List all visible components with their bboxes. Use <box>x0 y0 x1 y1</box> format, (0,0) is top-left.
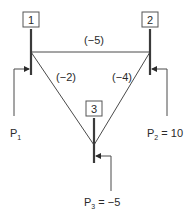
load-label-p3: P3 = −5 <box>84 196 120 210</box>
truss-diagram: 1 2 3 (−5) (−2) (−4) P1 P2 = 10 P3 = −5 <box>0 0 194 215</box>
node-2-label: 2 <box>147 14 153 26</box>
member-2-3-label: (−4) <box>112 71 132 83</box>
node-2-label-box: 2 <box>142 12 158 27</box>
load-arrow-p1 <box>14 69 29 116</box>
load-label-p2: P2 = 10 <box>147 127 183 141</box>
member-1-2-label: (−5) <box>84 34 104 46</box>
node-1-label-box: 1 <box>23 12 39 27</box>
node-3-label: 3 <box>91 103 97 115</box>
load-arrow-p2 <box>152 69 167 116</box>
member-1-3-label: (−2) <box>56 71 76 83</box>
node-1-label: 1 <box>28 14 34 26</box>
load-label-p1: P1 <box>10 127 21 141</box>
node-3-label-box: 3 <box>86 101 102 116</box>
member-2-3 <box>94 52 150 145</box>
member-1-3 <box>31 52 94 145</box>
load-arrow-p3 <box>96 156 111 191</box>
